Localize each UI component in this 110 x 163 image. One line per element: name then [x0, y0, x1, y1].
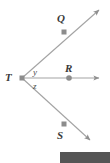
geometry-figure: Q R S T y z: [0, 0, 110, 163]
diagram-canvas: [0, 0, 110, 163]
point-label-R: R: [65, 63, 72, 74]
point-label-Q: Q: [57, 13, 65, 24]
point-label-S: S: [57, 130, 63, 141]
angle-label-y: y: [33, 68, 37, 77]
redaction-bar: [60, 152, 110, 163]
angle-label-z: z: [33, 82, 37, 91]
point-marker-Q: [62, 30, 67, 35]
point-marker-S: [62, 122, 67, 127]
point-marker-R: [66, 75, 72, 81]
point-label-T: T: [5, 72, 12, 83]
point-marker-T: [20, 76, 25, 81]
